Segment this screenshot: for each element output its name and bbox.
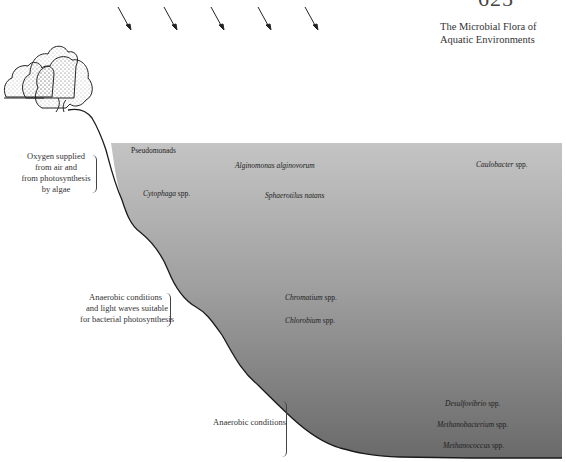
zone-brace-anaerobic <box>282 401 287 457</box>
organism-pseudomonads: Pseudomonads <box>131 146 176 155</box>
zone-brace-oxygen <box>92 155 97 193</box>
zone-label-oxygen: Oxygen supplied from air and from photos… <box>20 151 92 195</box>
running-head-line2: Aquatic Environments <box>440 33 537 46</box>
organism-cytophaga: Cytophaga spp. <box>143 189 190 198</box>
organism-sphaerotilus: Sphaerotilus natans <box>265 191 325 200</box>
organism-caulobacter: Caulobacter spp. <box>476 160 528 169</box>
page-number: 625 <box>478 0 514 12</box>
tree-icon <box>4 46 92 112</box>
organism-methanobacterium: Methanobacterium spp. <box>437 420 508 429</box>
organism-desulfovibrio: Desulfovibrio spp. <box>445 399 500 408</box>
organism-alginomonas: Alginomonas alginovorum <box>235 161 315 170</box>
organism-chromatium: Chromatium spp. <box>285 293 337 302</box>
organism-chlorobium: Chlorobium spp. <box>285 316 335 325</box>
running-head: The Microbial Flora of Aquatic Environme… <box>440 20 537 46</box>
zone-label-anaerobic: Anaerobic conditions <box>200 417 286 428</box>
lake-cross-section-illustration <box>0 0 566 462</box>
zone-brace-light-anaerobic <box>166 293 171 327</box>
sunlight-arrow-icon <box>118 7 318 30</box>
zone-label-light-anaerobic: Anaerobic conditions and light waves sui… <box>62 292 174 325</box>
running-head-line1: The Microbial Flora of <box>440 20 537 33</box>
organism-methanococcus: Methanococcus spp. <box>443 441 504 450</box>
